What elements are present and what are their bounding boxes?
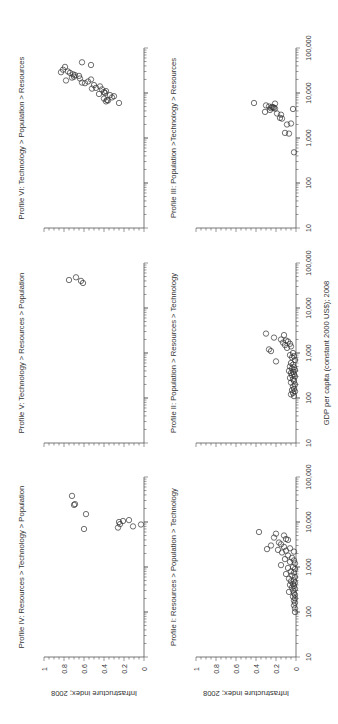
y-axis-label: Infrastructure index; 2008 (203, 689, 289, 698)
x-tick-label: 100,000 (305, 464, 312, 489)
panel-profile-iv: Profile IV: Resources > Technology > Pop… (17, 477, 148, 698)
x-tick-label: 100 (305, 606, 312, 618)
data-point (288, 569, 293, 574)
y-tick-label: 1 (193, 667, 200, 671)
data-point (285, 553, 290, 558)
x-tick-label: 10,000 (305, 82, 312, 104)
data-point (285, 565, 290, 570)
y-tick-label: 0.2 (273, 664, 280, 674)
data-point (138, 522, 143, 527)
panel-profile-v: Profile V: Technology > Resources > Popu… (17, 263, 148, 447)
data-point (288, 121, 293, 126)
x-tick-label: 10 (305, 439, 312, 447)
data-point (285, 537, 290, 542)
data-point (264, 546, 269, 551)
panel-title: Profile III: Population >Technology > Re… (169, 58, 178, 218)
data-point (116, 100, 121, 105)
data-point (263, 103, 268, 108)
data-point (251, 100, 256, 105)
chart-canvas: Profile I: Resources > Population > Tech… (0, 0, 338, 724)
data-point (69, 493, 74, 498)
data-point (83, 511, 88, 516)
scatter-figure: Profile I: Resources > Population > Tech… (0, 0, 338, 724)
data-point (120, 518, 125, 523)
x-tick-label: 10 (305, 653, 312, 661)
data-point (256, 529, 261, 534)
data-point (126, 517, 131, 522)
x-tick-label: 100 (305, 392, 312, 404)
data-point (284, 122, 289, 127)
panel-title: Profile IV: Resources > Technology > Pop… (17, 486, 26, 649)
panel-title: Profile V: Technology > Resources > Popu… (17, 273, 26, 433)
data-point (275, 547, 280, 552)
data-point (63, 78, 68, 83)
x-tick-label: 10 (305, 224, 312, 232)
y-tick-label: 1 (41, 667, 48, 671)
y-tick-label: 0.8 (61, 664, 68, 674)
x-tick-label: 100,000 (305, 250, 312, 275)
data-point (262, 109, 267, 114)
data-point (273, 359, 278, 364)
data-point (278, 337, 283, 342)
panel-profile-iii: Profile III: Population >Technology > Re… (169, 35, 312, 232)
panel-title: Profile VI: Technology > Population > Re… (17, 56, 26, 219)
x-tick-label: 100,000 (305, 35, 312, 60)
y-tick-label: 0 (293, 667, 300, 671)
y-tick-label: 0.6 (81, 664, 88, 674)
y-tick-label: 0.2 (121, 664, 128, 674)
y-tick-label: 0.4 (101, 664, 108, 674)
y-tick-label: 0.8 (213, 664, 220, 674)
panel-profile-vi: Profile VI: Technology > Population > Re… (17, 48, 148, 232)
data-point (79, 60, 84, 65)
panel-title: Profile II: Population > Resources > Tec… (169, 273, 178, 433)
data-point (263, 331, 268, 336)
y-tick-label: 0.4 (253, 664, 260, 674)
x-tick-label: 1,000 (305, 344, 312, 362)
data-point (81, 526, 86, 531)
x-tick-label: 10,000 (305, 297, 312, 319)
data-point (286, 131, 291, 136)
data-point (96, 91, 101, 96)
x-tick-label: 1,000 (305, 558, 312, 576)
data-point (66, 277, 71, 282)
panel-profile-i: Profile I: Resources > Population > Tech… (169, 464, 312, 698)
data-point (130, 524, 135, 529)
data-point (73, 275, 78, 280)
data-point (278, 562, 283, 567)
y-tick-label: 0 (141, 667, 148, 671)
panel-title: Profile I: Resources > Population > Tech… (169, 488, 178, 646)
data-point (282, 556, 287, 561)
x-tick-label: 100 (305, 177, 312, 189)
panel-profile-ii: Profile II: Population > Resources > Tec… (169, 250, 331, 447)
data-point (271, 335, 276, 340)
data-point (290, 106, 295, 111)
y-axis-label: Infrastructure index; 2008 (51, 689, 137, 698)
data-point (102, 90, 107, 95)
y-tick-label: 0.6 (233, 664, 240, 674)
x-tick-label: 10,000 (305, 511, 312, 533)
data-point (279, 116, 284, 121)
x-tick-label: 1,000 (305, 129, 312, 147)
x-axis-label: GDP per capita (constant 2000 US$); 2008 (322, 281, 331, 426)
data-point (88, 62, 93, 67)
